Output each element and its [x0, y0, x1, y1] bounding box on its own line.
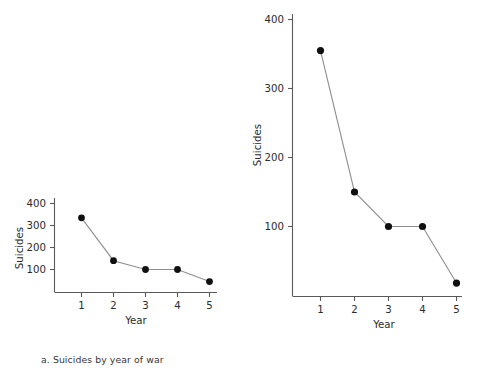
data-point — [206, 278, 213, 285]
chart-b-y-tick-100: 100 — [265, 221, 284, 232]
data-point — [78, 214, 85, 221]
chart-a-x-axis-title: Year — [124, 315, 147, 326]
chart-a-x-tick-4: 4 — [174, 300, 180, 311]
chart-b-series-line — [321, 51, 457, 284]
chart-b-y-tick-400: 400 — [265, 14, 284, 25]
chart-a-caption-line-1: a. Suicides by year of war — [41, 353, 232, 366]
chart-a-y-tick-200: 200 — [27, 242, 46, 253]
chart-a-x-tick-3: 3 — [142, 300, 148, 311]
data-point — [110, 257, 117, 264]
chart-b-y-ticks — [288, 20, 293, 227]
chart-a-y-tick-100: 100 — [27, 264, 46, 275]
chart-b-y-tick-200: 200 — [265, 152, 284, 163]
chart-a-y-tick-300: 300 — [27, 220, 46, 231]
chart-b-y-tick-300: 300 — [265, 83, 284, 94]
chart-b-x-tick-2: 2 — [351, 304, 357, 315]
chart-b-x-tick-1: 1 — [317, 304, 323, 315]
chart-b-plot: 400 300 200 100 Suicides 1 2 3 4 5 Year — [238, 0, 477, 330]
data-point — [385, 223, 392, 230]
chart-b-x-ticks — [321, 297, 457, 302]
chart-a-plot: 400 300 200 100 Suicides 1 2 3 4 5 Year — [0, 0, 240, 330]
chart-b-x-axis-title: Year — [372, 319, 395, 330]
chart-a-x-tick-1: 1 — [78, 300, 84, 311]
chart-a-series-points — [78, 214, 213, 285]
chart-a-y-tick-400: 400 — [27, 198, 46, 209]
chart-a-caption: a. Suicides by year of war Source: Natio… — [41, 327, 232, 377]
chart-a-x-tick-5: 5 — [206, 300, 212, 311]
chart-b-x-tick-4: 4 — [419, 304, 425, 315]
chart-a-x-tick-2: 2 — [110, 300, 116, 311]
data-point — [142, 266, 149, 273]
chart-b-x-tick-3: 3 — [385, 304, 391, 315]
data-point — [174, 266, 181, 273]
figure-a: 400 300 200 100 Suicides 1 2 3 4 5 Year … — [0, 0, 240, 377]
chart-b-x-tick-5: 5 — [453, 304, 459, 315]
data-point — [317, 47, 324, 54]
figure-b: 400 300 200 100 Suicides 1 2 3 4 5 Year … — [238, 0, 477, 377]
data-point — [351, 188, 358, 195]
data-point — [419, 223, 426, 230]
chart-b-series-points — [317, 47, 460, 287]
chart-a-y-axis-title: Suicides — [14, 227, 25, 269]
chart-b-y-axis-title: Suicides — [252, 124, 263, 166]
chart-a-x-ticks — [82, 293, 210, 298]
chart-a-y-ticks — [50, 204, 55, 270]
data-point — [453, 279, 460, 286]
